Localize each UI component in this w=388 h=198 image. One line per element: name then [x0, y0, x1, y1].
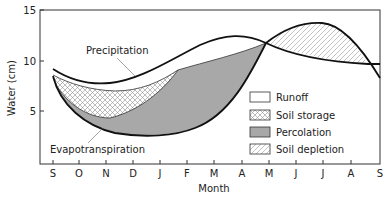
water-budget-chart: 15 10 5 Water (cm) S O N D J F M A M J J…	[0, 0, 388, 198]
legend-swatch-runoff	[250, 92, 270, 102]
x-tick-label: D	[129, 168, 137, 179]
evapotranspiration-leader	[88, 128, 103, 143]
y-tick-10: 10	[23, 56, 36, 67]
legend: Runoff Soil storage Percolation Soil dep…	[250, 92, 344, 155]
x-tick-label: J	[158, 168, 162, 179]
x-tick-label: A	[239, 168, 246, 179]
evapotranspiration-label: Evapotranspiration	[50, 144, 145, 155]
x-tick-label: O	[75, 168, 83, 179]
precipitation-leader	[117, 58, 135, 76]
legend-label-soil-depletion: Soil depletion	[276, 144, 344, 155]
y-tick-5: 5	[30, 106, 36, 117]
legend-label-percolation: Percolation	[276, 127, 331, 138]
legend-swatch-percolation	[250, 127, 270, 137]
legend-swatch-soil-depletion	[250, 144, 270, 154]
y-axis-title: Water (cm)	[6, 60, 17, 116]
precipitation-label: Precipitation	[86, 45, 149, 56]
x-axis-ticks	[53, 160, 351, 164]
x-tick-labels: S O N D J F M A M J J A S	[50, 168, 383, 179]
x-tick-label: M	[265, 168, 274, 179]
x-axis-title: Month	[198, 183, 229, 194]
x-tick-label: M	[210, 168, 219, 179]
y-axis	[40, 10, 44, 111]
legend-label-runoff: Runoff	[276, 92, 309, 103]
legend-label-soil-storage: Soil storage	[276, 110, 335, 121]
x-tick-label: N	[102, 168, 109, 179]
x-tick-label: A	[348, 168, 355, 179]
x-tick-label: S	[377, 168, 383, 179]
x-tick-label: F	[184, 168, 190, 179]
x-tick-label: J	[294, 168, 298, 179]
y-tick-15: 15	[23, 5, 36, 16]
x-tick-label: S	[50, 168, 56, 179]
x-tick-label: J	[321, 168, 325, 179]
legend-swatch-soil-storage	[250, 110, 270, 120]
